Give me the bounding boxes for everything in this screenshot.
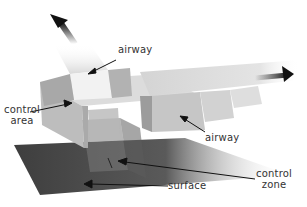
airway-top-label: airway bbox=[118, 44, 152, 55]
control-zone-label-line1: control bbox=[256, 168, 292, 179]
upward-arrow-icon bbox=[50, 14, 75, 44]
control-zone-label-line2: zone bbox=[256, 179, 292, 190]
surface-label: surface bbox=[168, 180, 206, 191]
airway-right-label: airway bbox=[205, 132, 239, 143]
control-zone-inner-face bbox=[88, 108, 120, 142]
control-area-label-line2: area bbox=[4, 115, 40, 126]
airway-right-extension bbox=[140, 60, 300, 132]
surface-plane bbox=[14, 138, 290, 195]
control-zone-label: control zone bbox=[256, 168, 292, 190]
control-area-label: control area bbox=[4, 104, 40, 126]
control-area-label-line1: control bbox=[4, 104, 40, 115]
